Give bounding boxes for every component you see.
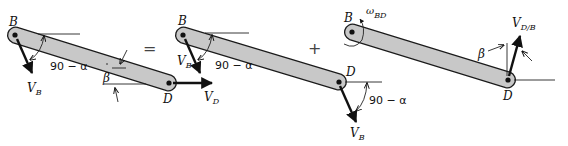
beta-pointer xyxy=(488,45,504,51)
label-vb-d: VB xyxy=(350,126,365,142)
label-vd: VD xyxy=(204,90,220,106)
beta-pointer-bottom xyxy=(115,88,118,102)
pin-d xyxy=(166,80,171,85)
label-b: B xyxy=(177,14,187,28)
label-d: D xyxy=(162,92,173,106)
plus-operator: + xyxy=(308,39,321,58)
pin-b xyxy=(12,32,17,37)
pin-d xyxy=(505,77,510,82)
label-d: D xyxy=(345,65,356,79)
label-omega: ωBD xyxy=(366,5,387,20)
label-b: B xyxy=(8,15,18,29)
label-angle-alpha-d: 90 − α xyxy=(369,94,406,107)
figure-rotation: B ωBD β VD/B D xyxy=(343,5,555,103)
label-beta: β xyxy=(477,47,485,61)
equals-operator: = xyxy=(143,39,156,58)
pin-d xyxy=(336,79,341,84)
label-vb: VB xyxy=(27,81,42,97)
angle-arc-alpha-d xyxy=(356,83,367,111)
label-vdb: VD/B xyxy=(512,16,536,32)
label-b: B xyxy=(343,11,353,25)
label-vb: VB xyxy=(177,54,192,70)
label-angle-alpha: 90 − α xyxy=(215,59,252,72)
pin-b xyxy=(349,29,354,34)
pin-b xyxy=(180,32,185,37)
label-beta: β xyxy=(102,71,110,85)
link-bd xyxy=(345,24,516,88)
vector-vb-at-d xyxy=(340,86,356,122)
label-d: D xyxy=(502,89,513,103)
relative-velocity-diagram: B VB 90 − α β D VD = B VB 90 − α D xyxy=(0,0,568,146)
label-angle-alpha: 90 − α xyxy=(50,60,87,73)
link-bd xyxy=(176,27,347,90)
perpendicular-marker xyxy=(522,51,532,61)
vector-vdb xyxy=(509,36,520,76)
